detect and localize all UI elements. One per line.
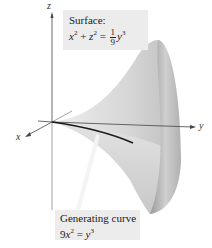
z-axis-arrow-icon bbox=[51, 12, 54, 18]
surface-label: Surface: x2 + z2 = 19y3 bbox=[63, 10, 148, 50]
curve-equation: 9x2 = y3 bbox=[60, 225, 140, 241]
generating-curve-label: Generating curve 9x2 = y3 bbox=[55, 210, 140, 240]
x-axis bbox=[28, 122, 52, 135]
curve-title: Generating curve bbox=[60, 212, 140, 225]
curve-leader bbox=[78, 135, 98, 210]
surface-equation: x2 + z2 = 19y3 bbox=[69, 27, 148, 47]
fraction-one-ninth: 19 bbox=[110, 28, 117, 47]
y-axis-back bbox=[38, 121, 52, 122]
x-axis-label: x bbox=[16, 131, 20, 142]
y-axis-arrow-icon bbox=[190, 125, 196, 129]
y-axis-label: y bbox=[199, 120, 203, 131]
surface-title: Surface: bbox=[69, 14, 148, 27]
z-axis-label: z bbox=[47, 0, 51, 11]
x-axis-arrow-icon bbox=[25, 132, 31, 137]
